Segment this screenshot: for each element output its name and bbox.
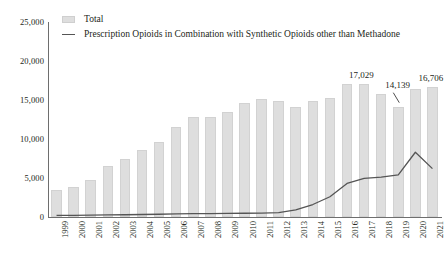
x-tick-label-2016: 2016 — [351, 221, 360, 238]
x-tick-label-2011: 2011 — [266, 221, 275, 238]
data-label-2021: 16,706 — [418, 74, 443, 83]
x-tick-label-2017: 2017 — [368, 221, 377, 238]
x-tick-label-2005: 2005 — [163, 221, 172, 238]
line-series-prescription-opioids — [48, 22, 441, 217]
x-tick-label-2002: 2002 — [112, 221, 121, 238]
y-tick-label: 5,000 — [0, 174, 44, 183]
x-tick-label-2014: 2014 — [317, 221, 326, 238]
line-path — [57, 152, 433, 215]
x-tick-label-2008: 2008 — [214, 221, 223, 238]
data-label-2019: 14,139 — [385, 81, 410, 90]
x-tick-label-2010: 2010 — [249, 221, 258, 238]
x-tick-label-1999: 1999 — [61, 221, 70, 238]
x-tick-label-2015: 2015 — [334, 221, 343, 238]
y-tick-label: 10,000 — [0, 135, 44, 144]
x-tick-label-2007: 2007 — [197, 221, 206, 238]
y-tick-label: 20,000 — [0, 57, 44, 66]
x-tick-label-2019: 2019 — [402, 221, 411, 238]
y-axis-tick-labels: 05,00010,00015,00020,00025,000 — [0, 0, 44, 265]
x-tick-label-2021: 2021 — [436, 221, 445, 238]
x-tick-label-2013: 2013 — [300, 221, 309, 238]
x-tick-label-2001: 2001 — [95, 221, 104, 238]
x-tick-label-2006: 2006 — [180, 221, 189, 238]
data-label-2017: 17,029 — [349, 71, 374, 80]
x-tick-label-2009: 2009 — [231, 221, 240, 238]
y-tick-label: 15,000 — [0, 96, 44, 105]
y-tick-label: 25,000 — [0, 18, 44, 27]
plot-area — [48, 22, 441, 217]
x-tick-label-2018: 2018 — [385, 221, 394, 238]
x-axis-line — [48, 217, 442, 218]
y-tick-label: 0 — [0, 213, 44, 222]
x-tick-label-2000: 2000 — [78, 221, 87, 238]
x-tick-label-2020: 2020 — [419, 221, 428, 238]
opioid-overdose-deaths-chart: Total Prescription Opioids in Combinatio… — [0, 0, 448, 265]
x-tick-label-2003: 2003 — [129, 221, 138, 238]
x-tick-label-2004: 2004 — [146, 221, 155, 238]
x-tick-label-2012: 2012 — [283, 221, 292, 238]
